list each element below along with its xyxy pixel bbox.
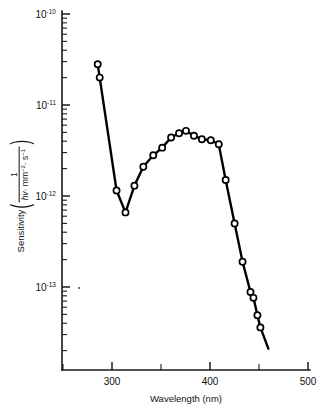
hv-symbol: hv	[20, 191, 30, 200]
y-axis-major-ticks	[62, 14, 70, 287]
y-axis-title-prefix: Sensitivity	[14, 210, 25, 253]
data-point	[254, 312, 260, 318]
y-axis-title: Sensitivity ( 1 hv· mm−2· s−1 )	[10, 140, 31, 253]
y-tick-labels: 10-10 10-11 10-12 10-13	[35, 8, 56, 293]
denominator-rest: · mm	[20, 172, 30, 191]
y-axis-numerator: 1	[10, 170, 19, 179]
data-point	[159, 145, 165, 151]
data-point	[183, 128, 189, 134]
y-axis-title-holder: Sensitivity ( 1 hv· mm−2· s−1 )	[4, 96, 36, 296]
y-tick-label-3: 10-13	[35, 281, 56, 293]
x-axis-title: Wavelength (nm)	[150, 393, 222, 404]
data-point	[140, 164, 146, 170]
x-tick-label-400: 400	[202, 376, 219, 387]
denominator-exp1: −2	[20, 165, 26, 172]
denominator-exp2: −1	[20, 149, 26, 156]
data-point	[257, 324, 263, 330]
data-point	[168, 134, 174, 140]
data-point	[223, 177, 229, 183]
data-point	[176, 130, 182, 136]
x-axis-minor-ticks	[63, 364, 259, 370]
data-point	[208, 137, 214, 143]
sensitivity-curve	[98, 64, 269, 348]
figure-root: 10-10 10-11 10-12 10-13 300 400 500 Wave…	[0, 0, 323, 412]
data-point	[113, 187, 119, 193]
data-point	[122, 209, 128, 215]
denominator-mid: · s	[20, 156, 30, 165]
data-point	[97, 75, 103, 81]
data-point	[199, 136, 205, 142]
y-axis-fraction: 1 hv· mm−2· s−1	[10, 147, 31, 202]
data-point	[131, 183, 137, 189]
y-axis-denominator: hv· mm−2· s−1	[20, 147, 31, 202]
x-axis-major-ticks	[112, 362, 308, 370]
spectral-sensitivity-chart: 10-10 10-11 10-12 10-13 300 400 500 Wave…	[0, 0, 323, 412]
x-tick-label-300: 300	[104, 376, 121, 387]
y-tick-label-1: 10-11	[36, 99, 56, 111]
data-point	[150, 152, 156, 158]
data-point	[95, 61, 101, 67]
data-point	[239, 259, 245, 265]
data-point	[216, 141, 222, 147]
data-point	[232, 220, 238, 226]
x-tick-label-500: 500	[300, 376, 317, 387]
y-tick-label-2: 10-12	[35, 190, 56, 202]
data-point	[250, 295, 256, 301]
y-tick-label-0: 10-10	[35, 8, 56, 20]
print-speck	[78, 287, 80, 289]
x-tick-labels: 300 400 500	[104, 376, 317, 387]
data-point	[191, 133, 197, 139]
